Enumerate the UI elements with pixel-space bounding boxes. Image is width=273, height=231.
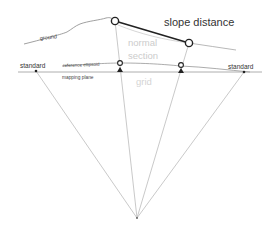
surveying-diagram: slope distance ground normal section gri… <box>0 0 273 231</box>
section-label: section <box>128 50 158 61</box>
radial-line-left-standard <box>36 71 137 218</box>
earth-center-point <box>136 217 138 219</box>
normal-label: normal <box>128 37 157 48</box>
radial-line-right-standard <box>137 72 244 218</box>
grid-label: grid <box>136 76 152 87</box>
reference-ellipsoid-label: reference ellipsoid <box>63 62 100 68</box>
standard-right-point <box>243 71 246 74</box>
ground-line-right <box>189 43 236 50</box>
standard-left-point <box>35 70 38 73</box>
ground-station-left-icon <box>111 17 118 24</box>
standard-left-label: standard <box>20 62 46 69</box>
ground-line <box>24 18 115 44</box>
instrument-right-icon <box>178 63 184 73</box>
ground-station-right-icon <box>185 39 192 46</box>
mapping-plane-label: mapping plane <box>62 75 94 80</box>
slope-distance-label: slope distance <box>164 16 234 28</box>
ground-label: ground <box>39 33 57 41</box>
standard-right-label: standard <box>228 63 254 70</box>
